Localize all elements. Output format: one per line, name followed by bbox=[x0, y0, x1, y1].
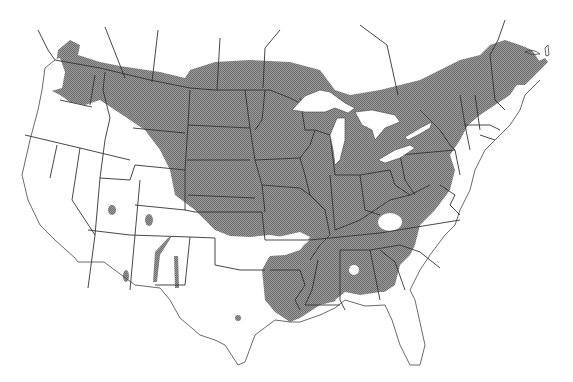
range-map bbox=[0, 0, 573, 382]
utah-population bbox=[108, 205, 116, 215]
alabama-gap bbox=[349, 265, 359, 275]
kentucky-gap bbox=[378, 213, 402, 231]
map-svg bbox=[0, 0, 573, 382]
main-range-area bbox=[50, 40, 540, 322]
texas-population bbox=[235, 315, 241, 321]
small-island bbox=[545, 45, 549, 56]
canada-line-5 bbox=[360, 25, 398, 95]
gulf-coast-gap bbox=[335, 292, 412, 310]
new-mexico-ridge-population bbox=[153, 236, 172, 282]
washington-coast-line bbox=[38, 30, 55, 60]
colorado-population bbox=[145, 214, 153, 226]
new-mexico-east-population bbox=[174, 256, 179, 288]
